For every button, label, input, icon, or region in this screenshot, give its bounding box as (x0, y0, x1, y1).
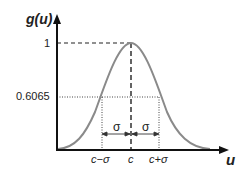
x-axis-label: u (226, 152, 235, 167)
y-axis-label: g(u) (26, 12, 52, 26)
x-tick-c: c (128, 154, 134, 165)
y-tick-1: 1 (44, 38, 50, 49)
sigma-left-label: σ (113, 121, 120, 133)
sigma-right-label: σ (142, 121, 149, 133)
x-tick-c-plus-sigma: c+σ (149, 154, 168, 165)
x-tick-c-minus-sigma: c−σ (91, 154, 110, 165)
y-tick-0.6065: 0.6065 (16, 91, 50, 102)
y-axis-arrowhead (53, 14, 61, 24)
